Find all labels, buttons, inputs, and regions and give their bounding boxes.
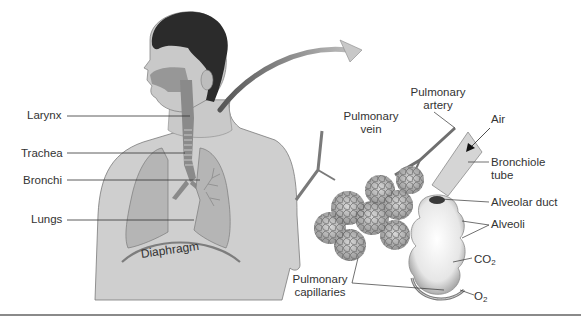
label-trachea: Trachea: [21, 147, 63, 160]
label-co2: CO2: [474, 253, 496, 269]
label-pulmonary-artery-line1: Pulmonary: [405, 86, 471, 99]
pulmonary-vein-vessel: [296, 131, 322, 200]
label-bronchiole-tube: Bronchiole tube: [491, 156, 545, 182]
label-air: Air: [491, 113, 505, 126]
o2-base: O: [474, 290, 483, 302]
label-alveoli: Alveoli: [491, 218, 525, 231]
label-pulmonary-vein: Pulmonary vein: [338, 110, 404, 136]
label-bronchi: Bronchi: [23, 174, 62, 187]
alveolar-duct-opening: [429, 196, 445, 204]
ear: [201, 70, 213, 90]
label-pulmonary-artery-line2: artery: [405, 99, 471, 112]
label-lungs: Lungs: [31, 213, 62, 226]
label-pulmonary-capillaries: Pulmonary capillaries: [288, 273, 352, 299]
label-bronchiole-line2: tube: [491, 169, 545, 182]
co2-subscript: 2: [491, 258, 495, 267]
zoom-arrow: [220, 49, 348, 110]
alveolar-sac: [409, 195, 465, 294]
label-larynx: Larynx: [27, 109, 62, 122]
label-pulmonary-artery: Pulmonary artery: [405, 86, 471, 112]
co2-base: CO: [474, 253, 491, 265]
o2-subscript: 2: [483, 295, 487, 304]
label-bronchiole-line1: Bronchiole: [491, 156, 545, 169]
label-pulmonary-vein-line2: vein: [338, 123, 404, 136]
bottom-divider: [0, 314, 581, 316]
label-pulmonary-vein-line1: Pulmonary: [338, 110, 404, 123]
capillary-clusters: [314, 166, 424, 261]
label-capillaries-line1: Pulmonary: [288, 273, 352, 286]
torso-illustration: [95, 12, 300, 300]
label-alveolar-duct: Alveolar duct: [491, 196, 557, 209]
label-o2: O2: [474, 290, 487, 306]
label-capillaries-line2: capillaries: [288, 286, 352, 299]
